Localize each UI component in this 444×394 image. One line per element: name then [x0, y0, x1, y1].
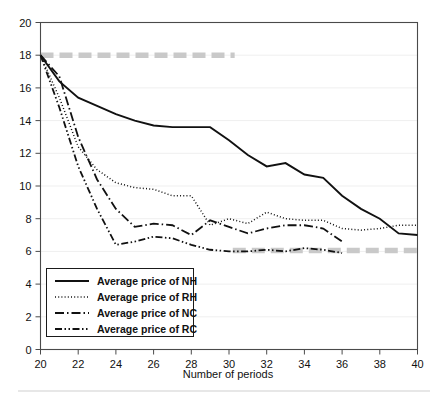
y-tick-label-16: 16 — [19, 82, 31, 94]
x-axis-title: Number of periods — [183, 368, 274, 380]
y-tick-label-6: 6 — [25, 245, 31, 257]
y-tick-label-0: 0 — [25, 344, 31, 356]
legend-label-RC: Average price of RC — [97, 323, 197, 335]
y-tick-label-8: 8 — [25, 213, 31, 225]
chart-svg: 2022242628303234363840 02468101214161820… — [0, 0, 444, 394]
x-tick-label-26: 26 — [147, 358, 159, 370]
y-tick-label-4: 4 — [25, 278, 31, 290]
x-tick-label-24: 24 — [110, 358, 122, 370]
series-line-RH — [41, 55, 418, 230]
x-tick-label-34: 34 — [298, 358, 310, 370]
legend-label-NH: Average price of NH — [97, 275, 197, 287]
y-tick-label-10: 10 — [19, 180, 31, 192]
x-tick-label-22: 22 — [72, 358, 84, 370]
x-axis-ticks: 2022242628303234363840 — [34, 350, 423, 370]
series-layer — [41, 55, 418, 253]
x-tick-label-36: 36 — [336, 358, 348, 370]
y-tick-label-2: 2 — [25, 311, 31, 323]
legend-label-RH: Average price of RH — [97, 291, 197, 303]
x-tick-label-40: 40 — [411, 358, 423, 370]
x-tick-label-20: 20 — [34, 358, 46, 370]
legend-label-NC: Average price of NC — [97, 307, 197, 319]
y-axis-ticks: 02468101214161820 — [19, 17, 40, 356]
x-tick-label-38: 38 — [374, 358, 386, 370]
series-line-NC — [41, 55, 343, 241]
series-line-RC — [41, 55, 343, 253]
y-tick-label-20: 20 — [19, 17, 31, 29]
legend: Average price of NHAverage price of RHAv… — [47, 269, 198, 337]
chart-figure: 2022242628303234363840 02468101214161820… — [0, 0, 444, 394]
y-tick-label-14: 14 — [19, 115, 31, 127]
y-tick-label-12: 12 — [19, 147, 31, 159]
y-tick-label-18: 18 — [19, 49, 31, 61]
